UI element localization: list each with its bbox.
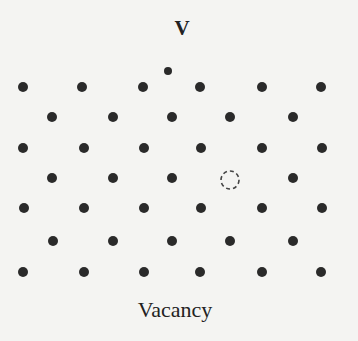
lattice-atom xyxy=(47,112,57,122)
lattice-atom xyxy=(79,143,89,153)
lattice-atom xyxy=(167,236,177,246)
lattice-atom xyxy=(317,203,327,213)
lattice-atom xyxy=(257,203,267,213)
displaced-atom xyxy=(164,67,172,75)
lattice-atom xyxy=(79,203,89,213)
lattice-atom xyxy=(196,203,206,213)
vacancy-caption: Vacancy xyxy=(120,297,230,323)
lattice-atom xyxy=(19,203,29,213)
lattice-atom xyxy=(47,173,57,183)
lattice-atom xyxy=(257,143,267,153)
vacancy-site-marker xyxy=(221,171,239,189)
lattice-atom xyxy=(225,112,235,122)
lattice-atom xyxy=(77,82,87,92)
lattice-atom xyxy=(18,143,28,153)
lattice-atom xyxy=(48,236,58,246)
lattice-atom xyxy=(195,267,205,277)
lattice-atom xyxy=(139,143,149,153)
lattice-atom xyxy=(195,82,205,92)
lattice-atom xyxy=(288,236,298,246)
lattice-atom xyxy=(316,267,326,277)
lattice-atom xyxy=(108,236,118,246)
crystal-lattice xyxy=(0,0,358,341)
lattice-atom xyxy=(196,143,206,153)
lattice-atom xyxy=(139,203,149,213)
lattice-atom xyxy=(108,173,118,183)
lattice-atom xyxy=(18,267,28,277)
lattice-atom xyxy=(288,112,298,122)
lattice-atom xyxy=(257,267,267,277)
lattice-atom xyxy=(257,82,267,92)
lattice-atom xyxy=(167,173,177,183)
lattice-atom xyxy=(138,82,148,92)
lattice-atom xyxy=(225,236,235,246)
lattice-atom xyxy=(317,143,327,153)
lattice-atom xyxy=(18,82,28,92)
lattice-atom xyxy=(288,173,298,183)
lattice-atom xyxy=(167,112,177,122)
lattice-atom xyxy=(139,267,149,277)
lattice-atom xyxy=(316,82,326,92)
lattice-atom xyxy=(108,112,118,122)
lattice-atom xyxy=(79,267,89,277)
